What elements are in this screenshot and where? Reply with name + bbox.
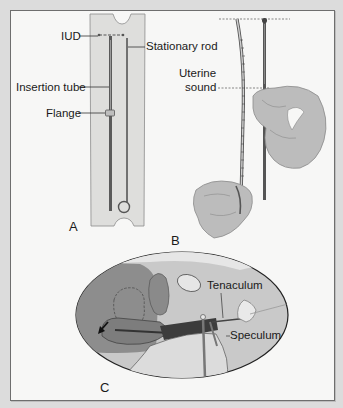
label-tenaculum: Tenaculum: [207, 280, 263, 292]
iud-package: [90, 14, 145, 226]
dashed-reference-lines: [218, 19, 290, 88]
uterine-sound-graduated: [237, 19, 245, 198]
label-iud: IUD: [61, 31, 81, 43]
panel-letter-c: C: [100, 381, 109, 394]
label-uterine-sound-line2: sound: [185, 82, 216, 94]
label-flange: Flange: [46, 108, 81, 120]
iud-insertion-illustration: [0, 0, 343, 408]
anatomical-cross-section: [70, 240, 300, 380]
label-stationary-rod: Stationary rod: [146, 41, 218, 53]
panel-letter-a: A: [69, 220, 78, 233]
flange: [106, 110, 115, 116]
label-uterine-sound-line1: Uterine: [179, 68, 216, 80]
label-insertion-tube: Insertion tube: [16, 82, 86, 94]
gloved-hand-lower: [193, 181, 252, 238]
panel-letter-b: B: [171, 234, 180, 247]
label-speculum: Speculum: [230, 330, 281, 342]
insertion-tube: [109, 36, 112, 211]
